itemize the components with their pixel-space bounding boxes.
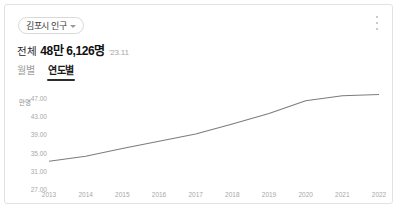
kebab-dot <box>376 16 378 18</box>
x-axis-tick-label: 2013 <box>42 191 56 198</box>
x-axis-tick-label: 2021 <box>335 191 349 198</box>
period-tabs: 월별 연도별 <box>17 62 74 81</box>
population-stat-card: 김포시 인구 전체 48만 6,126명 '23.11 월별 연도별 만명 47… <box>4 4 393 204</box>
x-axis-tick-label: 2018 <box>225 191 239 198</box>
chart-plot-area <box>49 89 379 189</box>
x-axis-tick-label: 2022 <box>372 191 386 198</box>
x-axis-tick-label: 2015 <box>115 191 129 198</box>
x-axis-tick-label: 2016 <box>152 191 166 198</box>
tab-monthly[interactable]: 월별 <box>17 62 34 81</box>
y-axis-tick-label: 35.00 <box>31 149 47 156</box>
stat-value: 48만 6,126명 <box>40 41 105 58</box>
x-axis-tick-label: 2020 <box>298 191 312 198</box>
chevron-down-icon <box>70 25 76 28</box>
tab-yearly[interactable]: 연도별 <box>48 62 74 81</box>
y-axis-tick-label: 31.00 <box>31 167 47 174</box>
region-selector-label: 김포시 인구 <box>26 19 67 32</box>
line-chart-svg <box>49 89 379 189</box>
x-axis-tick-label: 2017 <box>188 191 202 198</box>
kebab-menu-icon[interactable] <box>370 14 384 32</box>
y-axis: 47.0043.0039.0035.0031.0027.00 <box>17 89 47 204</box>
population-line-chart: 47.0043.0039.0035.0031.0027.00 201320142… <box>17 89 383 204</box>
y-axis-tick-label: 43.00 <box>31 113 47 120</box>
stat-prefix-label: 전체 <box>17 43 36 58</box>
total-population-stat: 전체 48만 6,126명 '23.11 <box>17 41 129 58</box>
y-axis-tick-label: 39.00 <box>31 131 47 138</box>
kebab-dot <box>376 28 378 30</box>
x-axis-tick-label: 2014 <box>78 191 92 198</box>
y-axis-tick-label: 47.00 <box>31 95 47 102</box>
population-line-series <box>49 94 379 161</box>
kebab-dot <box>376 22 378 24</box>
x-axis-tick-label: 2019 <box>262 191 276 198</box>
stat-date-label: '23.11 <box>109 48 129 57</box>
x-axis: 2013201420152016201720182019202020212022 <box>17 191 383 204</box>
region-selector-chip[interactable]: 김포시 인구 <box>18 17 84 34</box>
